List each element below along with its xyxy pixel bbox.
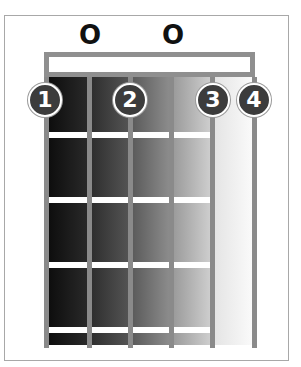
string-3 — [169, 77, 174, 348]
finger-marker-3: 3 — [196, 83, 230, 117]
fretboard-column — [48, 77, 89, 345]
string-5 — [87, 77, 92, 348]
fretboard-column — [173, 77, 212, 345]
string-4 — [128, 77, 133, 348]
finger-marker-4: 4 — [237, 83, 271, 117]
finger-marker-1: 1 — [28, 83, 62, 117]
finger-marker-2: 2 — [113, 83, 147, 117]
string-1 — [252, 77, 257, 348]
fretboard-column — [214, 77, 254, 345]
string-6 — [44, 77, 49, 348]
open-string-marker: O — [158, 22, 188, 48]
open-string-marker: O — [75, 22, 105, 48]
fretboard-column — [132, 77, 171, 345]
fretboard-column — [91, 77, 130, 345]
string-2 — [210, 77, 215, 348]
nut — [44, 52, 255, 77]
